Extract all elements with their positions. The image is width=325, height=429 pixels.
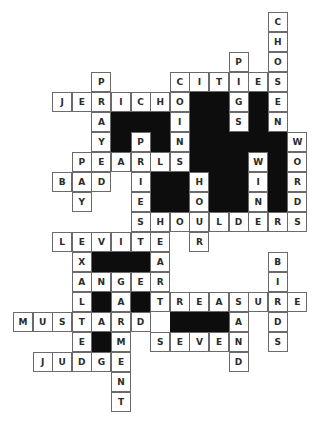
letter-cell[interactable]: A: [111, 152, 131, 172]
letter-cell[interactable]: X: [72, 252, 92, 272]
letter-cell[interactable]: G: [229, 92, 249, 112]
letter-cell[interactable]: S: [229, 112, 249, 132]
letter-cell[interactable]: I: [229, 72, 249, 92]
letter-cell[interactable]: L: [150, 152, 170, 172]
letter-cell[interactable]: U: [248, 292, 268, 312]
letter-cell[interactable]: R: [268, 292, 288, 312]
letter-cell[interactable]: A: [91, 312, 111, 332]
letter-cell[interactable]: U: [33, 312, 53, 332]
letter-cell[interactable]: H: [150, 212, 170, 232]
letter-cell[interactable]: O: [268, 52, 288, 72]
letter-cell[interactable]: A: [72, 272, 92, 292]
letter-cell[interactable]: D: [229, 212, 249, 232]
letter-cell[interactable]: L: [209, 212, 229, 232]
letter-cell[interactable]: N: [248, 192, 268, 212]
letter-cell[interactable]: L: [52, 232, 72, 252]
letter-cell[interactable]: B: [52, 172, 72, 192]
letter-cell[interactable]: S: [287, 212, 307, 232]
letter-cell[interactable]: R: [111, 312, 131, 332]
letter-cell[interactable]: T: [150, 292, 170, 312]
letter-cell[interactable]: M: [111, 332, 131, 352]
letter-cell[interactable]: N: [229, 332, 249, 352]
letter-cell[interactable]: P: [229, 52, 249, 72]
letter-cell[interactable]: D: [131, 312, 151, 332]
letter-cell[interactable]: E: [287, 292, 307, 312]
letter-cell[interactable]: O: [170, 212, 190, 232]
letter-cell[interactable]: J: [52, 92, 72, 112]
letter-cell[interactable]: I: [170, 112, 190, 132]
letter-cell[interactable]: H: [150, 92, 170, 112]
letter-cell[interactable]: A: [209, 292, 229, 312]
letter-cell[interactable]: H: [268, 32, 288, 52]
letter-cell[interactable]: G: [111, 272, 131, 292]
letter-cell[interactable]: C: [170, 72, 190, 92]
letter-cell[interactable]: O: [170, 92, 190, 112]
letter-cell[interactable]: R: [170, 292, 190, 312]
letter-cell[interactable]: N: [268, 112, 288, 132]
letter-cell[interactable]: P: [131, 132, 151, 152]
letter-cell[interactable]: W: [287, 132, 307, 152]
letter-cell[interactable]: E: [72, 232, 92, 252]
letter-cell[interactable]: T: [209, 72, 229, 92]
letter-cell[interactable]: S: [229, 292, 249, 312]
letter-cell[interactable]: Y: [72, 192, 92, 212]
letter-cell[interactable]: E: [111, 352, 131, 372]
letter-cell[interactable]: P: [72, 152, 92, 172]
letter-cell[interactable]: N: [170, 132, 190, 152]
letter-cell[interactable]: I: [111, 232, 131, 252]
letter-cell[interactable]: P: [91, 72, 111, 92]
letter-cell[interactable]: U: [52, 352, 72, 372]
letter-cell[interactable]: E: [131, 272, 151, 292]
letter-cell[interactable]: I: [131, 172, 151, 192]
letter-cell[interactable]: A: [229, 312, 249, 332]
letter-cell[interactable]: R: [189, 232, 209, 252]
letter-cell[interactable]: I: [189, 72, 209, 92]
letter-cell[interactable]: E: [72, 92, 92, 112]
letter-cell[interactable]: T: [131, 232, 151, 252]
letter-cell[interactable]: S: [131, 212, 151, 232]
letter-cell[interactable]: E: [268, 92, 288, 112]
letter-cell[interactable]: T: [72, 312, 92, 332]
letter-cell[interactable]: S: [170, 152, 190, 172]
letter-cell[interactable]: I: [268, 272, 288, 292]
letter-cell[interactable]: A: [91, 112, 111, 132]
letter-cell[interactable]: A: [111, 292, 131, 312]
letter-cell[interactable]: O: [189, 192, 209, 212]
letter-cell[interactable]: N: [91, 272, 111, 292]
letter-cell[interactable]: W: [248, 152, 268, 172]
letter-cell[interactable]: A: [150, 252, 170, 272]
letter-cell[interactable]: S: [52, 312, 72, 332]
letter-cell[interactable]: D: [268, 312, 288, 332]
letter-cell[interactable]: V: [189, 332, 209, 352]
letter-cell[interactable]: C: [268, 12, 288, 32]
letter-cell[interactable]: H: [189, 172, 209, 192]
letter-cell[interactable]: E: [91, 152, 111, 172]
letter-cell[interactable]: G: [91, 352, 111, 372]
letter-cell[interactable]: R: [131, 152, 151, 172]
letter-cell[interactable]: N: [111, 372, 131, 392]
letter-cell[interactable]: E: [150, 232, 170, 252]
letter-cell[interactable]: T: [111, 392, 131, 412]
letter-cell[interactable]: L: [72, 292, 92, 312]
letter-cell[interactable]: C: [131, 92, 151, 112]
letter-cell[interactable]: E: [248, 212, 268, 232]
letter-cell[interactable]: R: [287, 172, 307, 192]
letter-cell[interactable]: R: [150, 272, 170, 292]
letter-cell[interactable]: E: [131, 192, 151, 212]
letter-cell[interactable]: R: [268, 212, 288, 232]
letter-cell[interactable]: I: [111, 92, 131, 112]
letter-cell[interactable]: O: [287, 152, 307, 172]
letter-cell[interactable]: E: [209, 332, 229, 352]
letter-cell[interactable]: D: [287, 192, 307, 212]
letter-cell[interactable]: B: [268, 252, 288, 272]
letter-cell[interactable]: D: [91, 172, 111, 192]
letter-cell[interactable]: J: [33, 352, 53, 372]
letter-cell[interactable]: S: [150, 332, 170, 352]
letter-cell[interactable]: S: [268, 72, 288, 92]
letter-cell[interactable]: U: [189, 212, 209, 232]
letter-cell[interactable]: S: [268, 332, 288, 352]
letter-cell[interactable]: E: [189, 292, 209, 312]
letter-cell[interactable]: E: [72, 332, 92, 352]
letter-cell[interactable]: V: [91, 232, 111, 252]
letter-cell[interactable]: D: [229, 352, 249, 372]
